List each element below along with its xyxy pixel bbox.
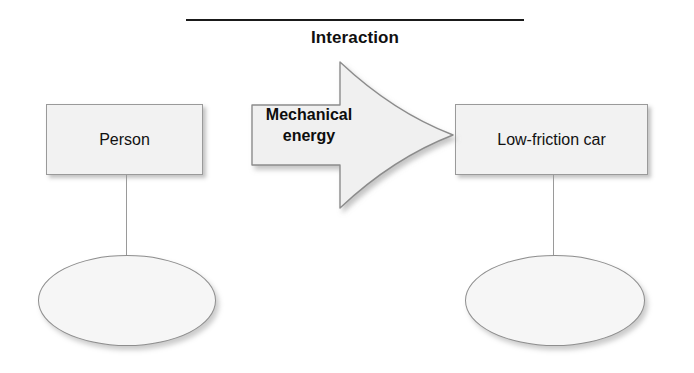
object-box-person-label: Person [99, 130, 150, 150]
title-divider-rule [186, 19, 524, 21]
energy-pie-low-friction-car [465, 255, 645, 346]
connector-line-low-friction-car [553, 175, 554, 256]
diagram-title: Interaction [186, 27, 524, 49]
energy-pie-person [38, 255, 216, 346]
connector-line-person [126, 175, 127, 256]
arrow-label-line-1: Mechanical [266, 106, 352, 123]
energy-transfer-arrow-label: Mechanical energy [254, 104, 364, 146]
object-box-person: Person [46, 104, 203, 175]
arrow-label-line-2: energy [283, 127, 335, 144]
object-box-low-friction-car-label: Low-friction car [497, 130, 605, 150]
object-box-low-friction-car: Low-friction car [455, 104, 648, 175]
energy-transfer-arrow: Mechanical energy [246, 52, 461, 217]
energy-transfer-diagram: Interaction Person Low-friction car Mech… [0, 0, 694, 373]
